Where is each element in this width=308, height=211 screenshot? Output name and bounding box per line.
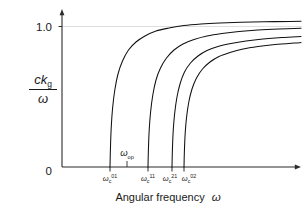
- y-axis-title: ckg ω: [29, 72, 57, 106]
- curve-tm02: [184, 43, 301, 167]
- figure-dispersion-curves: 1.0 0 ckg ω ωop ωc01 ωc11 ωc21 ωc02 Angu…: [0, 0, 308, 211]
- curve-te01: [110, 21, 301, 167]
- origin-label: 0: [46, 165, 52, 177]
- curve-te21: [172, 37, 301, 168]
- dispersion-curve-group: [110, 21, 301, 167]
- x-axis-title: Angular frequencyω: [115, 191, 220, 203]
- omega-op-label: ωop: [120, 147, 134, 160]
- x-axis-arrowhead: [295, 165, 301, 170]
- x-tick-label-wc21: ωc21: [163, 173, 177, 185]
- y-axis-numerator: ckg: [34, 72, 52, 89]
- y-axis-denominator: ω: [38, 91, 48, 106]
- x-tick-label-wc02: ωc02: [182, 173, 196, 185]
- y-tick-label-unity: 1.0: [36, 21, 52, 33]
- x-tick-label-wc01: ωc01: [103, 173, 117, 185]
- x-tick-label-wc11: ωc11: [141, 173, 155, 185]
- curve-te11: [148, 28, 301, 167]
- y-axis-arrowhead: [60, 9, 65, 15]
- chart-canvas: 1.0 0 ckg ω ωop ωc01 ωc11 ωc21 ωc02 Angu…: [0, 0, 308, 211]
